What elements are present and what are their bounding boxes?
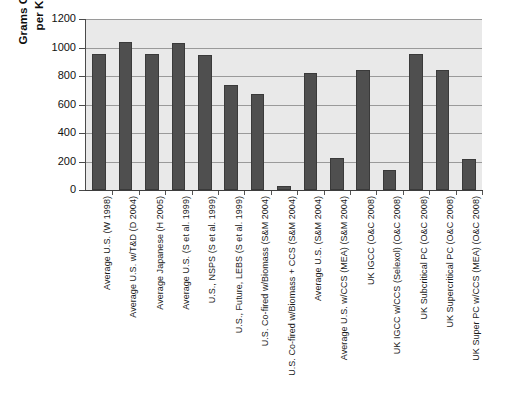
x-axis-tick-mark	[456, 191, 457, 195]
bar	[251, 94, 265, 190]
x-axis-tick-mark	[165, 191, 166, 195]
bar	[304, 73, 318, 190]
x-axis-category-label: Average U.S. (W 1998)	[103, 196, 112, 292]
y-axis-tick-label: 400	[36, 127, 76, 138]
x-axis-tick-mark	[112, 191, 113, 195]
x-axis-category-label-text: UK IGCC w/CCS (Selexol) (O&C 2008)	[393, 196, 402, 356]
x-axis-category-label: UK Supercritical PC (O&C 2008)	[446, 196, 455, 330]
x-axis-tick-mark	[271, 191, 272, 195]
y-axis-tick-mark	[79, 162, 85, 163]
x-axis-tick-mark	[218, 191, 219, 195]
bar	[172, 43, 186, 190]
x-axis-category-label: UK Subcritical PC (O&C 2008)	[420, 196, 429, 321]
x-axis-category-label-text: UK Subcritical PC (O&C 2008)	[420, 196, 429, 321]
y-axis-tick-mark	[79, 76, 85, 77]
bar	[224, 85, 238, 190]
x-axis-category-label: U.S., Future, LEBS (S et al. 1999)	[235, 196, 244, 335]
bars-layer	[86, 19, 482, 190]
x-axis-category-label: Average U.S. (S et al. 1999)	[182, 196, 191, 312]
x-axis-category-label: UK IGCC (O&C 2008)	[367, 196, 376, 287]
bar	[383, 170, 397, 190]
x-axis-category-label-text: UK IGCC (O&C 2008)	[367, 196, 376, 287]
x-axis-category-label: Average U.S. w/T&D (D 2004)	[129, 196, 138, 320]
x-axis-category-label: Average U.S. (S&M 2004)	[314, 196, 323, 303]
y-axis-tick-mark	[79, 48, 85, 49]
bar	[277, 186, 291, 190]
x-axis-category-label: U.S., NSPS (S et al. 1999)	[208, 196, 217, 305]
x-axis-tick-mark	[482, 191, 483, 195]
x-axis-tick-mark	[429, 191, 430, 195]
x-axis-category-label-text: Average U.S. (S&M 2004)	[314, 196, 323, 303]
x-axis-category-label: U.S. Co-fired w/Biomass + CCS (S&M 2004)	[288, 196, 297, 378]
x-axis-category-label: UK Super PC w/CCS (MEA) (O&C 2008)	[472, 196, 481, 363]
x-axis-category-label-text: U.S. Co-fired w/Biomass + CCS (S&M 2004)	[288, 196, 297, 378]
y-axis-tick-mark	[79, 19, 85, 20]
x-axis-category-label-text: U.S., Future, LEBS (S et al. 1999)	[235, 196, 244, 335]
y-axis-tick-label: 1000	[36, 42, 76, 53]
x-axis-category-label: UK IGCC w/CCS (Selexol) (O&C 2008)	[393, 196, 402, 356]
x-axis-tick-mark	[244, 191, 245, 195]
x-axis-category-label: U.S. Co-fired w/Biomass (S&M 2004)	[261, 196, 270, 348]
x-axis-category-label-text: U.S. Co-fired w/Biomass (S&M 2004)	[261, 196, 270, 348]
x-axis-tick-mark	[376, 191, 377, 195]
y-axis-tick-label: 200	[36, 156, 76, 167]
y-axis-tick-label: 600	[36, 99, 76, 110]
x-axis-tick-mark	[350, 191, 351, 195]
x-axis-line	[85, 190, 483, 191]
x-axis-category-label-text: UK Super PC w/CCS (MEA) (O&C 2008)	[472, 196, 481, 363]
bar	[356, 70, 370, 190]
x-axis-tick-mark	[192, 191, 193, 195]
y-axis-tick-label: 1200	[36, 13, 76, 24]
x-axis-category-label-text: Average U.S. (W 1998)	[103, 196, 112, 292]
x-axis-tick-mark	[403, 191, 404, 195]
x-axis-category-label-text: UK Supercritical PC (O&C 2008)	[446, 196, 455, 330]
bar	[145, 54, 159, 190]
x-axis-category-label-text: U.S., NSPS (S et al. 1999)	[208, 196, 217, 305]
bar-chart-figure: Grams CO2 Equivalentper Kilowatt-hour 02…	[0, 0, 508, 418]
y-axis-tick-label: 800	[36, 70, 76, 81]
bar	[198, 55, 212, 190]
bar	[330, 158, 344, 190]
y-axis-tick-mark	[79, 105, 85, 106]
bar	[409, 54, 423, 190]
x-axis-category-label-text: Average U.S. w/T&D (D 2004)	[129, 196, 138, 320]
bar	[119, 42, 133, 190]
x-axis-category-label: Average U.S. w/CCS (MEA) (S&M 2004)	[340, 196, 349, 362]
x-axis-tick-mark	[324, 191, 325, 195]
x-axis-tick-mark	[139, 191, 140, 195]
y-axis-tick-label: 0	[36, 184, 76, 195]
y-axis-tick-mark	[79, 190, 85, 191]
x-axis-category-labels: Average U.S. (W 1998)Average U.S. w/T&D …	[0, 196, 508, 411]
x-axis-tick-mark	[297, 191, 298, 195]
bar	[436, 70, 450, 190]
bar	[92, 54, 106, 190]
x-axis-category-label: Average Japanese (H 2005)	[156, 196, 165, 312]
bar	[462, 159, 476, 190]
y-axis-tick-mark	[79, 133, 85, 134]
x-axis-category-label-text: Average Japanese (H 2005)	[156, 196, 165, 312]
x-axis-category-label-text: Average U.S. (S et al. 1999)	[182, 196, 191, 312]
x-axis-category-label-text: Average U.S. w/CCS (MEA) (S&M 2004)	[340, 196, 349, 362]
